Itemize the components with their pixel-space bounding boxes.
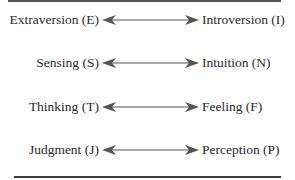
double-headed-arrow-icon — [102, 144, 199, 156]
pole-right: Introversion (I) — [202, 10, 285, 30]
pole-right: Feeling (F) — [202, 97, 262, 117]
top-rule — [8, 0, 281, 2]
bottom-rule — [14, 176, 281, 178]
double-headed-arrow-icon — [102, 14, 199, 26]
double-headed-arrow-icon — [102, 101, 199, 113]
dichotomy-row-jp: Judgment (J) Perception (P) — [0, 140, 295, 160]
pole-right: Intuition (N) — [202, 53, 271, 73]
pole-right: Perception (P) — [202, 140, 280, 160]
pole-left: Extraversion (E) — [9, 10, 99, 30]
pole-left: Thinking (T) — [29, 97, 99, 117]
double-headed-arrow-icon — [102, 57, 199, 69]
dichotomy-row-ei: Extraversion (E) Introversion (I) — [0, 10, 295, 30]
dichotomy-row-tf: Thinking (T) Feeling (F) — [0, 97, 295, 117]
pole-left: Sensing (S) — [36, 53, 99, 73]
dichotomy-row-sn: Sensing (S) Intuition (N) — [0, 53, 295, 73]
pole-left: Judgment (J) — [29, 140, 99, 160]
